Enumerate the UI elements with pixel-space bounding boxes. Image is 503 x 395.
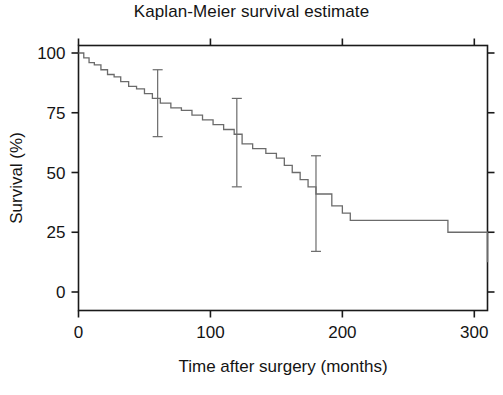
figure-canvas: Kaplan-Meier survival estimate 010020030… xyxy=(0,0,503,395)
plot-frame xyxy=(79,46,488,311)
confidence-interval-bar xyxy=(311,156,321,252)
y-axis-tick-labels: 0255075100 xyxy=(37,44,65,302)
confidence-interval-bar xyxy=(232,98,242,186)
x-tick-label: 0 xyxy=(74,323,83,342)
y-axis-title: Survival (%) xyxy=(7,132,26,224)
survival-step-curve xyxy=(79,53,488,262)
x-tick-label: 100 xyxy=(196,323,224,342)
kaplan-meier-plot: 0100200300 0255075100 Time after surgery… xyxy=(0,0,503,395)
y-tick-label: 25 xyxy=(47,223,66,242)
x-axis-title: Time after surgery (months) xyxy=(178,357,387,376)
plot-border xyxy=(79,46,488,311)
y-axis-ticks xyxy=(72,53,495,292)
survival-curve-group xyxy=(79,53,488,262)
x-axis-ticks xyxy=(79,39,475,318)
y-tick-label: 100 xyxy=(37,44,65,63)
y-tick-label: 50 xyxy=(47,164,66,183)
x-axis-tick-labels: 0100200300 xyxy=(74,323,489,342)
confidence-interval-bars xyxy=(153,70,321,252)
x-tick-label: 200 xyxy=(328,323,356,342)
y-tick-label: 75 xyxy=(47,104,66,123)
x-tick-label: 300 xyxy=(460,323,488,342)
y-tick-label: 0 xyxy=(56,283,65,302)
